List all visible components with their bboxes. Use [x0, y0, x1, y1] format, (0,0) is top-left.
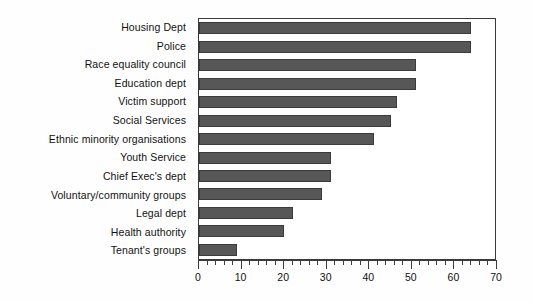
- value-axis: 010203040506070: [198, 260, 497, 300]
- axis-tick-minor: [470, 260, 471, 265]
- category-label: Race equality council: [0, 55, 192, 74]
- category-label: Health authority: [0, 223, 192, 242]
- bar: [199, 133, 374, 145]
- axis-tick-minor: [258, 260, 259, 265]
- bar-row: [199, 130, 495, 148]
- axis-tick-major: [283, 260, 284, 269]
- axis-tick-minor: [266, 260, 267, 265]
- bar: [199, 225, 284, 237]
- category-label: Chief Exec's dept: [0, 167, 192, 186]
- bar: [199, 59, 416, 71]
- bar-row: [199, 148, 495, 166]
- axis-tick-minor: [428, 260, 429, 265]
- bar-row: [199, 93, 495, 111]
- axis-tick-minor: [317, 260, 318, 265]
- axis-tick-major: [411, 260, 412, 269]
- axis-tick-major: [326, 260, 327, 269]
- axis-tick-minor: [479, 260, 480, 265]
- axis-tick-minor: [351, 260, 352, 265]
- category-axis-labels: Housing DeptPoliceRace equality councilE…: [0, 18, 192, 260]
- axis-tick-minor: [377, 260, 378, 265]
- axis-tick-major: [198, 260, 199, 269]
- plot-area: [198, 18, 496, 260]
- bar-row: [199, 222, 495, 240]
- bar: [199, 207, 293, 219]
- axis-tick-minor: [249, 260, 250, 265]
- axis-line: [198, 260, 497, 261]
- category-label: Education dept: [0, 74, 192, 93]
- axis-tick-label: 0: [195, 272, 201, 283]
- bar-row: [199, 241, 495, 259]
- axis-tick-label: 50: [405, 272, 417, 283]
- axis-tick-minor: [300, 260, 301, 265]
- bar: [199, 41, 471, 53]
- bar: [199, 22, 471, 34]
- bar: [199, 96, 397, 108]
- axis-tick-major: [241, 260, 242, 269]
- bar-row: [199, 185, 495, 203]
- axis-tick-major: [496, 260, 497, 269]
- bar-row: [199, 111, 495, 129]
- bar: [199, 188, 322, 200]
- axis-tick-label: 70: [490, 272, 502, 283]
- axis-tick-minor: [402, 260, 403, 265]
- axis-tick-minor: [462, 260, 463, 265]
- axis-tick-minor: [275, 260, 276, 265]
- category-label: Social Services: [0, 111, 192, 130]
- axis-tick-label: 60: [448, 272, 460, 283]
- bar-row: [199, 37, 495, 55]
- axis-tick-label: 20: [277, 272, 289, 283]
- category-label: Youth Service: [0, 148, 192, 167]
- axis-tick-label: 10: [235, 272, 247, 283]
- bar: [199, 78, 416, 90]
- category-label: Voluntary/community groups: [0, 185, 192, 204]
- bar-row: [199, 167, 495, 185]
- axis-tick-minor: [419, 260, 420, 265]
- axis-tick-label: 40: [362, 272, 374, 283]
- axis-tick-minor: [394, 260, 395, 265]
- category-label: Ethnic minority organisations: [0, 130, 192, 149]
- axis-tick-minor: [292, 260, 293, 265]
- category-label: Victim support: [0, 92, 192, 111]
- axis-tick-label: 30: [320, 272, 332, 283]
- axis-tick-minor: [224, 260, 225, 265]
- bar-row: [199, 204, 495, 222]
- bar: [199, 170, 331, 182]
- axis-tick-major: [368, 260, 369, 269]
- category-label: Legal dept: [0, 204, 192, 223]
- bar-row: [199, 19, 495, 37]
- axis-tick-minor: [385, 260, 386, 265]
- bar: [199, 152, 331, 164]
- axis-tick-minor: [309, 260, 310, 265]
- axis-tick-minor: [360, 260, 361, 265]
- axis-tick-minor: [436, 260, 437, 265]
- axis-tick-minor: [207, 260, 208, 265]
- category-label: Police: [0, 37, 192, 56]
- axis-tick-minor: [232, 260, 233, 265]
- bar: [199, 244, 237, 256]
- bar-row: [199, 56, 495, 74]
- axis-tick-minor: [343, 260, 344, 265]
- axis-tick-minor: [487, 260, 488, 265]
- category-label: Tenant's groups: [0, 241, 192, 260]
- bar-row: [199, 74, 495, 92]
- bar-chart: Housing DeptPoliceRace equality councilE…: [0, 0, 533, 302]
- bar: [199, 115, 391, 127]
- axis-tick-minor: [334, 260, 335, 265]
- axis-tick-minor: [215, 260, 216, 265]
- axis-tick-minor: [445, 260, 446, 265]
- category-label: Housing Dept: [0, 18, 192, 37]
- bars-container: [199, 19, 495, 259]
- axis-tick-major: [453, 260, 454, 269]
